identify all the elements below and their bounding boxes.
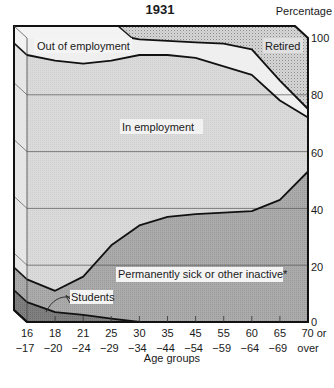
x-tick-label-top: 30 [133, 327, 145, 339]
y-tick-label: 60 [311, 147, 323, 159]
x-axis-tick-labels: 16−1718−2021−2425−2930−3435−4445−5455−59… [16, 327, 327, 354]
x-tick-label-top: 18 [49, 327, 61, 339]
x-tick-label-bottom: −44 [156, 342, 175, 354]
label-permanently-sick: Permanently sick or other inactive* [116, 267, 288, 282]
svg-text:In employment: In employment [122, 121, 194, 133]
label-in-employment: In employment [120, 119, 203, 134]
chart-3d-side-panel [14, 26, 27, 322]
x-tick-label-bottom: −34 [128, 342, 147, 354]
svg-text:Permanently sick or other inac: Permanently sick or other inactive* [118, 268, 288, 280]
x-tick-label-bottom: −59 [212, 342, 231, 354]
stacked-area-chart: 1931 Percentage Age groups 100 80 60 40 … [0, 0, 334, 388]
x-tick-label-bottom: −17 [16, 342, 35, 354]
x-tick-label-top: 45 [189, 327, 201, 339]
chart-3d-top-panel [14, 26, 308, 38]
x-tick-label-bottom: −20 [44, 342, 63, 354]
x-tick-label-top: 65 [274, 327, 286, 339]
y-tick-label: 40 [311, 204, 323, 216]
x-tick-label-top: 21 [77, 327, 89, 339]
x-tick-label-bottom: −24 [72, 342, 91, 354]
x-tick-label-bottom: over [297, 342, 319, 354]
svg-text:Out of employment: Out of employment [37, 40, 130, 52]
y-tick-label: 100 [311, 32, 329, 44]
svg-text:Retired: Retired [265, 40, 300, 52]
x-tick-label-top: 60 [246, 327, 258, 339]
x-tick-label-top: 70 or [301, 327, 326, 339]
svg-text:Students: Students [71, 291, 115, 303]
y-tick-label: 80 [311, 89, 323, 101]
x-tick-label-bottom: −29 [100, 342, 119, 354]
label-retired: Retired [263, 38, 303, 53]
y-axis-title: Percentage [276, 5, 332, 17]
x-tick-label-top: 55 [218, 327, 230, 339]
x-tick-label-top: 35 [161, 327, 173, 339]
x-tick-label-top: 16 [21, 327, 33, 339]
x-tick-label-top: 25 [105, 327, 117, 339]
chart-title: 1931 [146, 2, 175, 17]
x-tick-label-bottom: −69 [269, 342, 288, 354]
label-out-of-employment: Out of employment [34, 38, 132, 53]
x-tick-label-bottom: −54 [184, 342, 203, 354]
y-tick-label: 20 [311, 261, 323, 273]
x-tick-label-bottom: −64 [240, 342, 259, 354]
